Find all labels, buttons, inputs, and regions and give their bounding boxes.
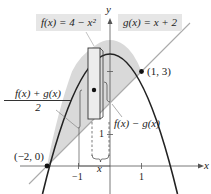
- difference-label: f(x) − g(x): [114, 118, 160, 129]
- f-definition-label: f(x) = 4 − x²: [36, 14, 101, 31]
- intersection-point-right: [139, 69, 144, 74]
- average-label: f(x) + g(x) 2: [4, 88, 72, 113]
- midpoint-dot: [92, 88, 96, 92]
- x-tick-neg1: −1: [72, 172, 83, 182]
- width-label: x: [97, 163, 102, 174]
- y-tick-1: 1: [99, 129, 104, 139]
- intersection-point-left: [45, 164, 50, 169]
- point-label-1-3: (1, 3): [147, 66, 171, 77]
- x-axis-label: x: [204, 160, 209, 171]
- x-tick-1: 1: [139, 172, 144, 182]
- average-numerator: f(x) + g(x): [4, 88, 72, 101]
- point-label-neg2-0: (−2, 0): [14, 151, 44, 162]
- y-axis-label: y: [106, 4, 111, 15]
- representative-rectangle: [88, 48, 100, 119]
- g-definition-label: g(x) = x + 2: [118, 14, 182, 31]
- average-denominator: 2: [4, 101, 72, 113]
- y-axis-arrow-icon: [108, 18, 113, 24]
- chart: f(x) = 4 − x² g(x) = x + 2 f(x) + g(x) 2…: [0, 0, 211, 194]
